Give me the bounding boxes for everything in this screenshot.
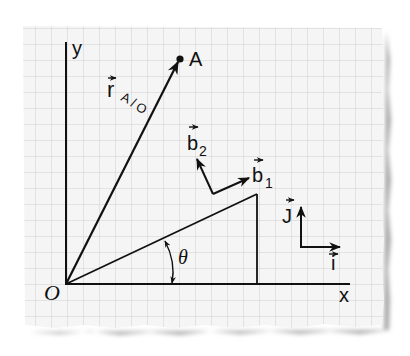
graph-paper xyxy=(23,26,384,328)
y-axis-label: y xyxy=(72,37,82,59)
point-a-dot xyxy=(176,55,183,62)
x-axis-label: x xyxy=(339,284,349,306)
b2-subscript: 2 xyxy=(199,143,207,159)
j-symbol: J xyxy=(282,205,292,227)
i-symbol: i xyxy=(331,252,335,274)
b1-symbol: b xyxy=(252,164,263,186)
origin-label: O xyxy=(44,280,60,305)
vector-diagram: y x O A r A / O θ b 1 b 2 J i xyxy=(0,0,410,356)
point-a-label: A xyxy=(189,48,203,70)
theta-label: θ xyxy=(178,246,188,268)
r-symbol: r xyxy=(107,77,114,102)
b2-symbol: b xyxy=(187,132,198,154)
b1-subscript: 1 xyxy=(265,175,273,191)
